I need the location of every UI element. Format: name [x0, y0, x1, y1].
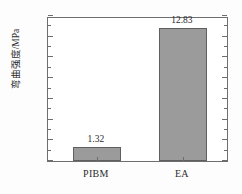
y-tick-minor — [48, 150, 51, 151]
y-tick-minor-right — [224, 25, 227, 26]
y-tick-major-right — [222, 98, 227, 99]
y-tick-minor — [48, 67, 51, 68]
y-tick-major-right — [222, 139, 227, 140]
y-tick-minor-right — [224, 129, 227, 130]
y-tick-minor — [48, 129, 51, 130]
bar — [159, 28, 207, 161]
y-tick-minor-right — [224, 150, 227, 151]
y-tick-major-right — [222, 119, 227, 120]
bar-chart-figure: 弯曲强度/MPa 02468101214 PIBMEA 1.3212.83 — [0, 0, 242, 194]
y-tick-minor-right — [224, 67, 227, 68]
y-tick-major-right — [222, 160, 227, 161]
y-tick-minor — [48, 46, 51, 47]
y-tick-major-right — [222, 36, 227, 37]
x-category-label: PIBM — [56, 168, 136, 179]
y-tick-major — [48, 36, 53, 37]
x-tick — [97, 157, 98, 161]
y-axis-title: 弯曲强度/MPa — [9, 13, 23, 105]
y-tick-minor-right — [224, 46, 227, 47]
y-tick-major — [48, 160, 53, 161]
y-tick-major — [48, 98, 53, 99]
y-tick-major — [48, 56, 53, 57]
y-tick-minor — [48, 88, 51, 89]
y-tick-major — [48, 15, 53, 16]
y-tick-minor-right — [224, 88, 227, 89]
y-tick-minor — [48, 25, 51, 26]
y-tick-major — [48, 77, 53, 78]
y-tick-major — [48, 139, 53, 140]
bar-value-label: 12.83 — [152, 16, 212, 26]
y-tick-major-right — [222, 77, 227, 78]
y-tick-major — [48, 119, 53, 120]
bar-value-label: 1.32 — [66, 135, 126, 145]
y-tick-minor — [48, 108, 51, 109]
x-tick — [183, 157, 184, 161]
y-tick-minor-right — [224, 108, 227, 109]
y-tick-major-right — [222, 15, 227, 16]
x-category-label: EA — [142, 168, 222, 179]
y-tick-major-right — [222, 56, 227, 57]
